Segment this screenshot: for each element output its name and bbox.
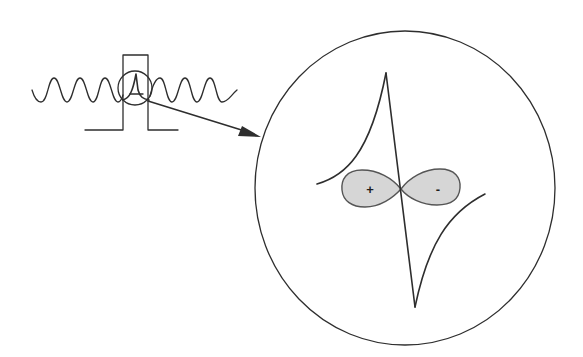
- lobe-negative: [401, 169, 460, 205]
- cusp-waveform-right: [415, 194, 485, 307]
- positive-sign: +: [366, 182, 374, 197]
- arrowhead-icon: [238, 126, 261, 137]
- right-wave: [150, 78, 237, 102]
- zoom-arrow: [148, 101, 261, 137]
- mini-cusp: [123, 74, 149, 100]
- magnified-inset: + -: [255, 31, 555, 345]
- arrow-shaft: [148, 101, 248, 132]
- negative-sign: -: [436, 182, 440, 197]
- diagram-canvas: + -: [0, 0, 583, 357]
- cusp-waveform-left: [317, 73, 386, 184]
- left-wave: [32, 78, 123, 102]
